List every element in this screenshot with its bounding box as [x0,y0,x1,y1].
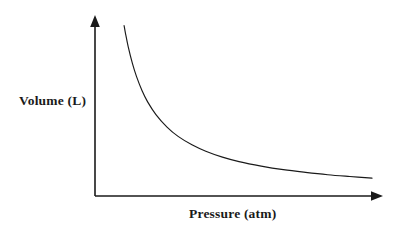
arrow-up-icon [90,15,100,27]
y-axis-label: Volume (L) [19,93,86,109]
x-axis-label: Pressure (atm) [189,206,276,222]
plot-area [0,0,394,233]
arrow-right-icon [371,191,383,201]
chart-figure: Volume (L) Pressure (atm) [0,0,394,233]
data-curve-pressure-volume [124,26,372,179]
